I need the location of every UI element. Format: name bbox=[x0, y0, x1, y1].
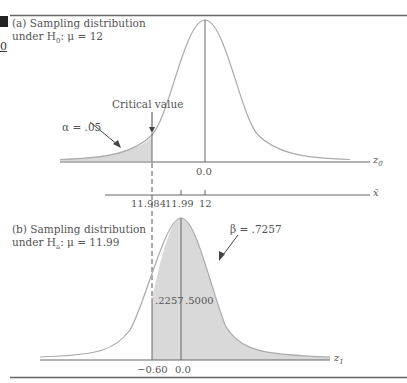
power-figure: 0 (a) Sampling distribution under H0 bbox=[0, 0, 407, 383]
figure-graphic bbox=[0, 0, 407, 383]
z0-sub: 0 bbox=[378, 160, 382, 168]
alpha-label: α = .05 bbox=[62, 121, 101, 134]
xbar-tick-1199: 11.99 bbox=[165, 198, 194, 209]
panel-b-title-line2: under Ha: μ = 11.99 bbox=[12, 236, 119, 254]
area-left-label: .2257 bbox=[155, 295, 184, 306]
xbar-tick-11984: 11.984 bbox=[131, 198, 166, 209]
z1-sub: 1 bbox=[339, 358, 343, 366]
z1-axis-label: z1 bbox=[334, 352, 344, 366]
z0-axis-label: z0 bbox=[373, 154, 383, 168]
critical-value-label: Critical value bbox=[112, 98, 183, 111]
beta-label: β = .7257 bbox=[230, 223, 282, 236]
area-right-label: .5000 bbox=[185, 295, 214, 306]
panel-a-title-line1: (a) Sampling distribution bbox=[12, 17, 146, 30]
panel-b-title-line1: (b) Sampling distribution bbox=[12, 223, 146, 236]
z1-tick-center: 0.0 bbox=[175, 364, 191, 375]
xbar-tick-12: 12 bbox=[199, 198, 212, 209]
panel-b-h-label: under H bbox=[12, 236, 56, 248]
panel-a-h-label: under H bbox=[12, 30, 56, 42]
z0-center-tick: 0.0 bbox=[196, 166, 212, 177]
panel-a-title-line2: under H0: μ = 12 bbox=[12, 30, 103, 48]
panel-b-mu: : μ = 11.99 bbox=[60, 236, 119, 248]
z1-tick-left: −0.60 bbox=[137, 364, 168, 375]
panel-a-mu: : μ = 12 bbox=[60, 30, 103, 42]
xbar-axis-label: x̄ bbox=[373, 187, 379, 198]
